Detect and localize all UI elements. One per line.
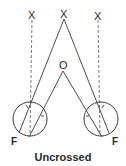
right-target-label: X (94, 10, 102, 22)
right-eye-tick (102, 105, 104, 108)
left-target-label: X (28, 9, 36, 21)
fixation-point-label: O (59, 59, 68, 71)
right-dashed-line (98, 20, 100, 135)
center-target-label: X (60, 8, 68, 20)
left-line-from-fixation (29, 71, 63, 137)
diagram-caption: Uncrossed (35, 151, 92, 163)
right-line-from-fixation (63, 71, 102, 137)
left-dashed-line (30, 20, 32, 135)
left-eye-tick (26, 105, 28, 108)
right-eye (84, 102, 118, 136)
right-fovea-label: F (112, 136, 118, 147)
uncrossed-diplopia-diagram: X X X O F F Uncrossed (0, 0, 126, 166)
left-fovea-label: F (11, 136, 17, 147)
